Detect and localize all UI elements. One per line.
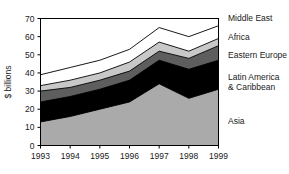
x-tick-label: 1994	[61, 151, 80, 161]
x-tick-label: 1999	[209, 151, 228, 161]
legend-label-africa: Africa	[228, 32, 250, 42]
legend-label-eastern-europe: Eastern Europe	[228, 50, 287, 60]
x-tick-label: 1997	[150, 151, 169, 161]
y-tick-label: 30	[25, 86, 35, 96]
x-tick-label: 1993	[31, 151, 50, 161]
y-tick-label: 20	[25, 104, 35, 114]
y-tick-label: 60	[25, 32, 35, 42]
x-tick-label: 1996	[120, 151, 139, 161]
legend-label-asia: Asia	[228, 116, 245, 126]
x-tick-label: 1998	[179, 151, 198, 161]
y-tick-label: 0	[30, 141, 35, 151]
legend-label-middle-east: Middle East	[228, 13, 273, 23]
y-tick-label: 50	[25, 50, 35, 60]
legend-label-latin-america-line2: & Caribbean	[228, 82, 276, 92]
stacked-area-chart: 010203040506070 199319941995199619971998…	[0, 0, 289, 174]
y-tick-label: 10	[25, 122, 35, 132]
y-tick-label: 70	[25, 14, 35, 24]
y-axis-title: $ billions	[3, 65, 13, 98]
chart-canvas: 010203040506070 199319941995199619971998…	[0, 0, 289, 174]
y-tick-label: 40	[25, 68, 35, 78]
legend-label-latin-america-line1: Latin America	[228, 72, 280, 82]
x-tick-label: 1995	[90, 151, 109, 161]
